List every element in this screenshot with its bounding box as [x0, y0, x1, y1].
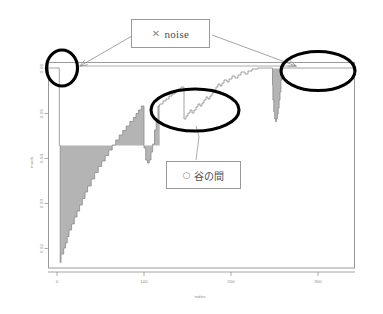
x-tick-label-2: 200 — [220, 279, 242, 284]
x-tick-label-3: 300 — [307, 279, 329, 284]
x-tick-label-1: 100 — [133, 279, 155, 284]
noise-annotation-label: noise — [164, 28, 189, 40]
valley-annotation-label: 谷の間 — [194, 168, 224, 183]
x-tick-label-0: 0 — [46, 279, 68, 284]
noise-annotation-box: ✕ noise — [131, 19, 210, 48]
y-tick-label-1: 0.05 — [39, 103, 44, 125]
y-tick-label-2: 0.04 — [39, 148, 44, 170]
series-fill-area — [59, 106, 159, 263]
y-tick-label-4: 0.02 — [39, 238, 44, 260]
circle-marker-icon: ○ — [183, 170, 191, 180]
noise-arrow-right — [212, 35, 296, 66]
y-tick-label-0: 0.06 — [39, 58, 44, 80]
noise-arrow-left — [80, 36, 132, 66]
noise-ellipse-right — [281, 52, 355, 91]
valley-annotation-box: ○ 谷の間 — [166, 161, 241, 189]
y-axis-title: mach — [29, 150, 34, 176]
series-fill-spike-right — [273, 69, 282, 122]
x-axis-ticks — [48, 272, 355, 276]
cross-marker-icon: ✕ — [152, 28, 161, 39]
x-axis-title: index — [180, 294, 220, 299]
y-axis-ticks — [45, 63, 49, 269]
y-tick-label-3: 0.03 — [39, 193, 44, 215]
screenshot-canvas: ✕ noise ○ 谷の間 0.06 0.05 0.04 0.03 0.02 m… — [0, 0, 383, 314]
